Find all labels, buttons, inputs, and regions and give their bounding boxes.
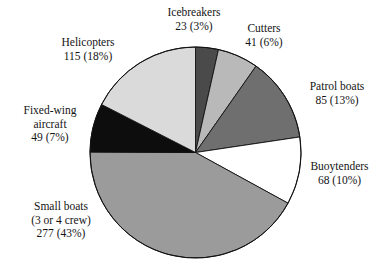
slice-label-buoytenders: Buoytenders 68 (10%) [290,160,389,187]
slice-label-cutters-name: Cutters [228,22,300,36]
slice-label-patrol-boats-value: 85 (13%) [288,94,386,108]
pie-slice-group [90,47,301,258]
slice-label-cutters: Cutters 41 (6%) [228,22,300,49]
slice-label-small-boats-value: 277 (43%) [6,227,116,241]
slice-label-icebreakers-name: Icebreakers [146,6,242,20]
slice-label-helicopters: Helicopters 115 (18%) [36,36,140,63]
slice-label-small-boats-detail: (3 or 4 crew) [6,214,116,228]
slice-label-cutters-value: 41 (6%) [228,36,300,50]
slice-label-buoytenders-value: 68 (10%) [290,174,389,188]
slice-label-small-boats: Small boats (3 or 4 crew) 277 (43%) [6,200,116,241]
pie-chart-figure: Icebreakers 23 (3%) Cutters 41 (6%) Patr… [0,0,389,277]
slice-label-helicopters-name: Helicopters [36,36,140,50]
slice-label-buoytenders-name: Buoytenders [290,160,389,174]
slice-label-small-boats-name: Small boats [6,200,116,214]
slice-label-fixed-wing-name2: aircraft [2,118,98,132]
slice-label-fixed-wing-aircraft: Fixed-wing aircraft 49 (7%) [2,104,98,145]
slice-label-patrol-boats: Patrol boats 85 (13%) [288,80,386,107]
slice-label-patrol-boats-name: Patrol boats [288,80,386,94]
slice-label-helicopters-value: 115 (18%) [36,50,140,64]
slice-label-fixed-wing-value: 49 (7%) [2,131,98,145]
slice-label-fixed-wing-name: Fixed-wing [2,104,98,118]
